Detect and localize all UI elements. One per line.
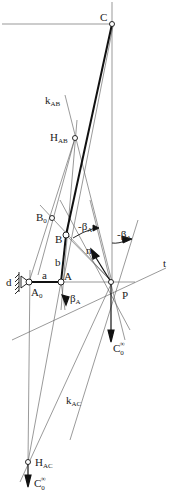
label-C0-inf-1: C0∞ <box>113 340 125 357</box>
k-AC-line <box>20 282 112 482</box>
arrow-head-C0-2 <box>25 475 31 487</box>
link-C-B <box>66 24 112 235</box>
joint-H_AC <box>26 460 31 465</box>
label-neg-beta-A-1: -βA <box>78 220 92 234</box>
label-k-AB: kAB <box>45 94 61 108</box>
label-n: n <box>86 244 92 256</box>
label-b: b <box>55 256 61 268</box>
line-H_AB-A0 <box>29 138 75 282</box>
arrow-head-n <box>91 249 99 259</box>
label-B0: B0 <box>36 211 47 225</box>
labels: C kAB HAB B0 B -βA -βA n b t d a A A0 βA… <box>6 11 166 492</box>
label-t: t <box>163 257 166 269</box>
arrow-head-beta-A <box>62 295 69 305</box>
label-C0-inf-2: C0∞ <box>34 475 46 492</box>
vertical-A0-H_AC <box>28 270 30 462</box>
label-A: A <box>64 270 72 282</box>
label-C: C <box>100 11 107 23</box>
arrows <box>25 249 114 487</box>
t-line <box>12 268 166 340</box>
line-B-P <box>66 235 112 282</box>
joint-P <box>109 280 114 285</box>
arrow-head-C0-1 <box>108 330 114 342</box>
label-beta-A: βA <box>70 292 81 306</box>
joint-C <box>110 22 115 27</box>
label-d: d <box>6 276 12 288</box>
joint-H_AB <box>73 136 78 141</box>
joint-B <box>63 232 69 238</box>
label-k-AC: kAC <box>66 394 82 408</box>
label-B: B <box>55 233 62 245</box>
label-P: P <box>122 289 128 301</box>
joint-A0 <box>26 279 32 285</box>
joint-B0 <box>50 216 55 221</box>
label-neg-beta-A-2: -βA <box>117 228 131 242</box>
label-A0: A0 <box>31 286 43 300</box>
label-H-AB: HAB <box>50 131 68 145</box>
mechanism-diagram: C kAB HAB B0 B -βA -βA n b t d a A A0 βA… <box>0 0 176 497</box>
label-a: a <box>42 269 47 281</box>
line-A-H_AC <box>28 282 61 462</box>
construction-lines <box>2 2 166 482</box>
label-H-AC: HAC <box>35 456 53 470</box>
